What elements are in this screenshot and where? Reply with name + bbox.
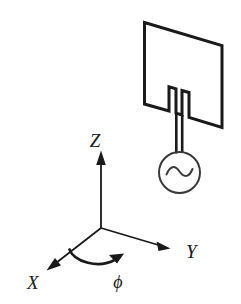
patch-antenna-group: [145, 23, 223, 194]
rectangular-patch: [145, 23, 223, 128]
y-axis-arrowhead: [157, 242, 171, 252]
coordinate-axes-group: [47, 151, 171, 271]
y-axis-line: [101, 228, 160, 246]
antenna-geometry-figure: Z Y X ϕ: [0, 0, 241, 304]
y-axis-label: Y: [186, 241, 199, 262]
phi-angle-label: ϕ: [113, 272, 122, 292]
phi-angle-arc: [69, 249, 116, 264]
z-axis-label: Z: [90, 130, 101, 151]
x-axis-label: X: [26, 272, 40, 293]
ac-source-sine-icon: [167, 167, 193, 176]
z-axis-arrowhead: [96, 151, 106, 166]
figure-canvas: Z Y X ϕ: [0, 0, 241, 304]
